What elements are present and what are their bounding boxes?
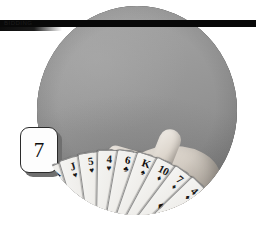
rule-taper [0, 27, 62, 31]
card-corner-index: 4♦ [179, 181, 204, 206]
circular-photo: Q♠6♠3♠2♠A♠J♥5♥4♥6♣K♠10♦7♦♦4♦♦♦ [37, 6, 237, 215]
rule-label: BIDDING [4, 20, 33, 27]
top-rule: BIDDING [0, 20, 256, 27]
figure-root: Q♠6♠3♠2♠A♠J♥5♥4♥6♣K♠10♦7♦♦4♦♦♦ BIDDING 7 [0, 0, 256, 232]
figure-number: 7 [34, 140, 45, 161]
card-pip: ♦ [165, 207, 179, 215]
